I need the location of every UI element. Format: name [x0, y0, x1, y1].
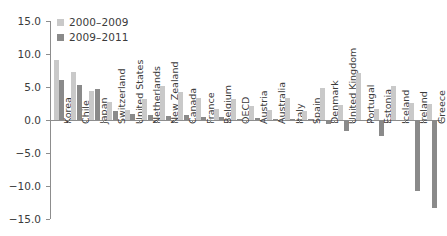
y-axis-tick: [46, 87, 50, 88]
x-axis-tick: [441, 120, 442, 123]
legend-item: 2009–2011: [57, 30, 129, 44]
chart-legend: 2000–20092009–2011: [57, 15, 129, 45]
x-axis-tick: [210, 120, 211, 123]
bar: [249, 106, 254, 121]
y-axis-tick: [46, 21, 50, 22]
x-axis-tick: [370, 120, 371, 123]
bar: [125, 110, 130, 120]
y-axis-tick-label: −15.0: [0, 213, 41, 225]
bar: [302, 111, 307, 120]
bar: [214, 109, 219, 120]
bar: [196, 98, 201, 120]
bar: [374, 109, 379, 120]
x-axis-tick: [405, 120, 406, 123]
x-axis-tick: [192, 120, 193, 123]
y-axis-tick-label: 0.0: [0, 114, 41, 126]
legend-label: 2009–2011: [69, 31, 129, 43]
x-axis-category-label: Greece: [436, 90, 447, 124]
x-axis-tick: [281, 120, 282, 123]
x-axis-tick: [86, 120, 87, 123]
bar: [142, 99, 147, 120]
x-axis-tick: [68, 120, 69, 123]
bar: [267, 110, 272, 120]
bar: [160, 86, 165, 120]
x-axis-tick: [174, 120, 175, 123]
y-axis-tick-label: 10.0: [0, 48, 41, 60]
x-axis-tick: [352, 120, 353, 123]
legend-label: 2000–2009: [69, 16, 129, 28]
bar: [391, 86, 396, 120]
x-axis-tick: [157, 120, 158, 123]
bar: [409, 103, 414, 120]
y-axis-tick-label: −10.0: [0, 180, 41, 192]
x-axis-tick: [317, 120, 318, 123]
bar: [231, 99, 236, 120]
legend-swatch-icon: [57, 19, 64, 26]
bar: [338, 105, 343, 120]
bar: [432, 120, 437, 208]
x-axis-tick: [263, 120, 264, 123]
x-axis-tick: [50, 120, 51, 123]
y-axis-tick: [46, 219, 50, 220]
legend-swatch-icon: [57, 34, 64, 41]
x-axis-tick: [103, 120, 104, 123]
x-axis-tick: [334, 120, 335, 123]
bar: [71, 72, 76, 120]
x-axis-tick: [388, 120, 389, 123]
y-axis-tick-label: −5.0: [0, 147, 41, 159]
bar: [285, 98, 290, 120]
x-axis-tick: [121, 120, 122, 123]
bar: [107, 102, 112, 120]
x-axis-tick: [246, 120, 247, 123]
bar: [356, 73, 361, 120]
y-axis-tick: [46, 186, 50, 187]
bar: [178, 92, 183, 120]
bar: [89, 91, 94, 120]
bar: [54, 60, 59, 120]
y-axis-tick: [46, 54, 50, 55]
bar: [320, 88, 325, 120]
y-axis-tick-label: 5.0: [0, 81, 41, 93]
x-axis-tick: [139, 120, 140, 123]
y-axis-tick-label: 15.0: [0, 15, 41, 27]
y-axis-tick: [46, 153, 50, 154]
legend-item: 2000–2009: [57, 15, 129, 29]
x-axis-tick: [228, 120, 229, 123]
bar-chart: 2000–20092009–2011 15.010.05.00.0−5.0−10…: [0, 0, 447, 236]
x-axis-tick: [423, 120, 424, 123]
x-axis-tick: [299, 120, 300, 123]
bar: [415, 120, 420, 191]
bar: [427, 104, 432, 120]
